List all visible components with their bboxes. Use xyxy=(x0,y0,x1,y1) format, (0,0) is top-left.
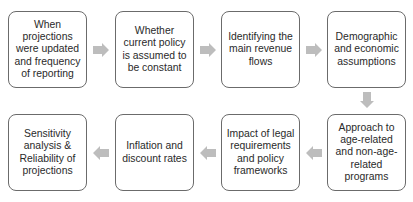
step-box-6: Impact of legal requirements and policy … xyxy=(221,114,300,191)
step-label: Whether current policy is assumed to be … xyxy=(119,25,190,74)
step-box-7: Inflation and discount rates xyxy=(115,114,194,191)
arrow-left-icon xyxy=(200,146,216,160)
step-label: Identifying the main revenue flows xyxy=(225,31,296,68)
arrow-left-icon xyxy=(306,146,322,160)
arrow-right-icon xyxy=(93,43,109,57)
step-box-5: Approach to age-related and non-age-rela… xyxy=(327,114,406,191)
arrow-left-icon xyxy=(93,146,109,160)
step-box-2: Whether current policy is assumed to be … xyxy=(115,11,194,88)
step-box-4: Demographic and economic assumptions xyxy=(327,11,406,88)
step-label: When projections were updated and freque… xyxy=(12,19,83,80)
step-box-3: Identifying the main revenue flows xyxy=(221,11,300,88)
arrow-right-icon xyxy=(306,43,322,57)
step-box-8: Sensitivity analysis & Reliability of pr… xyxy=(8,114,87,191)
arrow-right-icon xyxy=(200,43,216,57)
step-label: Demographic and economic assumptions xyxy=(331,31,402,68)
step-box-1: When projections were updated and freque… xyxy=(8,11,87,88)
step-label: Sensitivity analysis & Reliability of pr… xyxy=(12,128,83,177)
step-label: Impact of legal requirements and policy … xyxy=(225,128,296,177)
arrow-down-icon xyxy=(360,92,374,108)
step-label: Approach to age-related and non-age-rela… xyxy=(331,122,402,183)
step-label: Inflation and discount rates xyxy=(119,140,190,164)
